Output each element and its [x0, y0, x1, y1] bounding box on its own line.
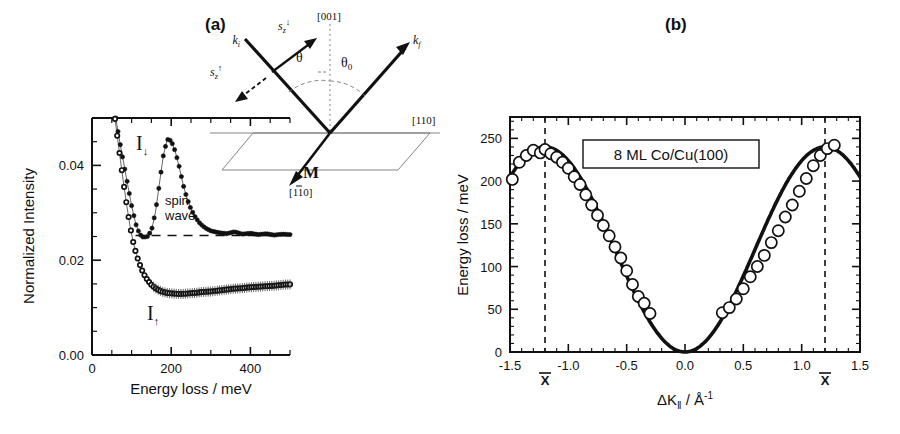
data-point-minority — [136, 229, 140, 233]
theta0-label: θ0 — [341, 55, 353, 72]
panel-b-svg: (b) -1.5-1.0-0.50.00.51.01.5050100150200… — [450, 0, 900, 434]
data-point-minority — [182, 184, 186, 188]
dispersion-data-point — [759, 250, 770, 261]
dispersion-data-point — [604, 230, 615, 241]
y-tick-label: 250 — [480, 131, 502, 146]
dispersion-data-point — [731, 293, 742, 304]
data-point-majority — [138, 263, 142, 267]
panel-b-x-axis-title: ΔK‖ / Å-1 — [657, 390, 713, 411]
data-point-majority — [117, 151, 121, 155]
data-point-minority — [118, 143, 122, 147]
data-point-minority — [150, 226, 154, 230]
data-point-majority — [140, 268, 144, 272]
direction-001-label: [001] — [317, 10, 341, 22]
data-point-majority — [136, 256, 140, 260]
dispersion-data-point — [609, 241, 620, 252]
data-point-minority — [134, 223, 138, 227]
y-tick-label: 0.00 — [59, 348, 84, 363]
spin-down-label: sz↓ — [278, 17, 290, 35]
data-point-minority — [161, 154, 165, 158]
data-point-majority — [124, 200, 128, 204]
data-point-majority — [122, 185, 126, 189]
panel-a-x-axis-title: Energy loss / meV — [130, 380, 252, 397]
dispersion-data-point — [773, 225, 784, 236]
x-tick-label: 1.5 — [851, 358, 869, 373]
spin-up-label: sz↑ — [210, 63, 222, 81]
theta0-arc — [330, 81, 366, 97]
x-tick-label: 0.5 — [734, 358, 752, 373]
dispersion-data-point — [574, 179, 585, 190]
majority-intensity-label: I↑ — [147, 302, 159, 327]
dispersion-data-point — [780, 211, 791, 222]
data-point-minority — [159, 170, 163, 174]
scattering-geometry-inset: [001] ki kf sz↓ — [210, 10, 440, 198]
dispersion-data-point — [615, 252, 626, 263]
data-point-minority — [179, 175, 183, 179]
magnetization-label: M — [303, 163, 319, 182]
dispersion-data-point — [808, 160, 819, 171]
dispersion-data-point — [745, 271, 756, 282]
y-tick-label: 0.02 — [59, 253, 84, 268]
dispersion-data-point — [787, 199, 798, 210]
data-point-minority — [152, 216, 156, 220]
data-point-minority — [154, 203, 158, 207]
y-tick-label: 0.04 — [59, 158, 84, 173]
minority-intensity-label: I↓ — [136, 132, 148, 157]
panel-a-tick-labels: 02004000.000.020.04 — [59, 158, 262, 376]
direction-1bar10-label: [110] — [289, 186, 312, 198]
zone-label-text: X — [821, 373, 830, 388]
panel-a-container: (a) [001] ki kf — [0, 0, 450, 434]
panel-b-tag: (b) — [665, 15, 687, 34]
dispersion-data-point — [794, 186, 805, 197]
dispersion-data-point — [639, 298, 650, 309]
magnetization-arrowhead — [289, 171, 303, 186]
dispersion-data-point — [801, 173, 812, 184]
x-tick-label: -0.5 — [615, 358, 637, 373]
y-tick-label: 0 — [495, 345, 502, 360]
spin-wave-annotation-line2: wave — [164, 208, 195, 223]
x-tick-label: 0 — [88, 361, 95, 376]
dispersion-data-point — [592, 210, 603, 221]
dispersion-data-point — [644, 308, 655, 319]
dispersion-data-point — [580, 189, 591, 200]
data-point-minority — [148, 231, 152, 235]
legend-sample-label: 8 ML Co/Cu(100) — [614, 146, 729, 163]
data-point-majority — [131, 240, 135, 244]
x-tick-label: -1.5 — [499, 358, 521, 373]
data-point-majority — [126, 215, 130, 219]
data-point-minority — [173, 148, 177, 152]
y-tick-label: 150 — [480, 217, 502, 232]
data-point-minority — [130, 204, 134, 208]
y-tick-label: 100 — [480, 260, 502, 275]
zone-boundary-label-1: X — [819, 373, 831, 388]
spin-wave-annotation-line1: spin — [165, 193, 189, 208]
x-tick-label: 0.0 — [676, 358, 694, 373]
data-point-majority — [129, 228, 133, 232]
k-final-arrowhead — [396, 42, 410, 55]
data-point-minority — [157, 186, 161, 190]
y-tick-label: 50 — [488, 302, 502, 317]
spin-down-arrow-line — [272, 42, 312, 72]
data-point-minority — [163, 144, 167, 148]
dispersion-data-point — [752, 261, 763, 272]
data-point-minority — [177, 164, 181, 168]
direction-110-label: [110] — [412, 114, 435, 126]
panel-a-svg: (a) [001] ki kf — [0, 0, 450, 434]
x-tick-label: -1.0 — [557, 358, 579, 373]
panel-b-zone-boundary-labels: XX — [539, 373, 831, 388]
zone-label-text: X — [541, 373, 550, 388]
x-tick-label: 1.0 — [793, 358, 811, 373]
data-point-minority — [288, 233, 292, 237]
data-point-minority — [127, 191, 131, 195]
data-point-minority — [170, 142, 174, 146]
panel-b-container: (b) -1.5-1.0-0.50.00.51.01.5050100150200… — [450, 0, 900, 434]
panel-a-y-axis-title: Normalized Intensity — [20, 168, 37, 304]
svg-text:[110]: [110] — [289, 186, 312, 198]
k-final-label: kf — [413, 33, 422, 49]
theta-label: θ — [296, 50, 303, 65]
theta-arc — [289, 80, 330, 92]
panel-b-legend: 8 ML Co/Cu(100) — [583, 140, 759, 168]
dispersion-data-point — [586, 199, 597, 210]
data-point-minority — [132, 214, 136, 218]
data-point-minority — [125, 179, 129, 183]
